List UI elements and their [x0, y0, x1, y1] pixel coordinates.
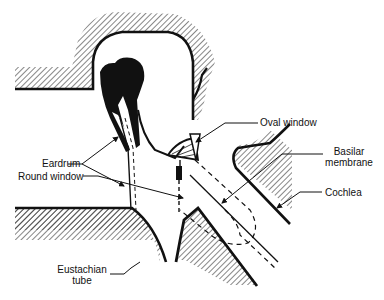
round-window [176, 160, 182, 215]
lower-bone-right [176, 208, 258, 286]
ossicles [100, 58, 184, 158]
label-cochlea: Cochlea [325, 187, 362, 198]
label-basilar-line1: Basilar [324, 146, 374, 157]
label-eustachian-tube: Eustachian tube [56, 264, 108, 286]
label-basilar-line2: membrane [324, 157, 374, 168]
label-oval-window: Oval window [260, 117, 317, 128]
label-eustachian-line2: tube [56, 275, 108, 286]
label-eardrum: Eardrum [42, 158, 80, 169]
label-eustachian-line1: Eustachian [56, 264, 108, 275]
label-basilar-membrane: Basilar membrane [324, 146, 374, 168]
lower-bone-left [15, 208, 166, 300]
label-round-window: Round window [18, 171, 84, 182]
cochlea-upper-wall [233, 124, 292, 224]
